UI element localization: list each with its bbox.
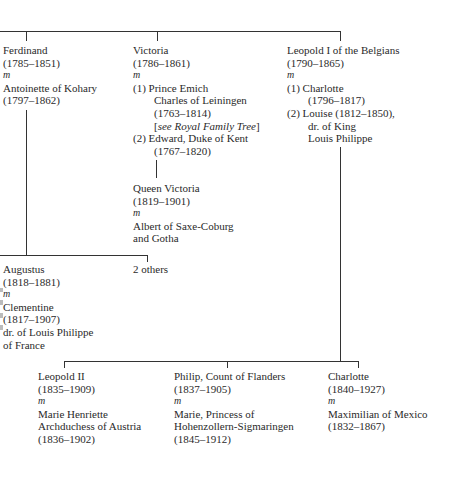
marriage-marker: m (3, 69, 97, 82)
spouse-parentage: dr. of Louis Philippe (3, 326, 93, 339)
spouse-house: Hohenzollern-Sigmaringen (174, 420, 294, 433)
spouse-name: Marie, Princess of (174, 408, 294, 421)
node-charlotte: Charlotte (1840–1927) m Maximilian of Me… (328, 370, 428, 433)
spouse-dates: (1832–1867) (328, 420, 428, 433)
marriage-marker: m (328, 395, 428, 408)
leopold1-descent-line (340, 147, 341, 361)
spouse2-name: (2) Edward, Duke of Kent (133, 132, 260, 145)
charlotte-drop-line (358, 361, 359, 368)
node-augustus: Augustus (1818–1881) m Clementine (1817–… (3, 263, 93, 351)
person-name: Victoria (133, 44, 260, 57)
marriage-marker: m (3, 288, 93, 301)
person-name: Philip, Count of Flanders (174, 370, 294, 383)
spouse1-name: (1) Prince Emich (133, 82, 260, 95)
person-name: Leopold I of the Belgians (287, 44, 399, 57)
node-ferdinand: Ferdinand (1785–1851) m Antoinette of Ko… (3, 44, 97, 107)
spouse-dates: (1845–1912) (174, 433, 294, 446)
marriage-marker: m (287, 69, 399, 82)
top-sibling-connector (0, 31, 341, 32)
marriage-marker: m (38, 395, 141, 408)
spouse1-name-line2: Charles of Leiningen (133, 94, 260, 107)
spouse-title: Archduchess of Austria (38, 420, 141, 433)
spouse1-dates: (1796–1817) (287, 94, 399, 107)
spouse1-name: (1) Charlotte (287, 82, 399, 95)
spouse-name-line2: and Gotha (133, 232, 234, 245)
spouse2-dates: (1767–1820) (133, 145, 260, 158)
marriage-marker: m (174, 395, 294, 408)
bracket-close: ] (256, 120, 260, 132)
node-victoria: Victoria (1786–1861) m (1) Prince Emich … (133, 44, 260, 157)
person-name: Augustus (3, 263, 93, 276)
spouse-dates: (1836–1902) (38, 433, 141, 446)
spouse1-cross-reference: [see Royal Family Tree] (133, 120, 260, 133)
marriage-marker: m (133, 207, 234, 220)
spouse-name: Albert of Saxe-Coburg (133, 220, 234, 233)
spouse-parentage-line2: of France (3, 339, 93, 352)
ferdinand-drop-line (26, 31, 27, 41)
spouse2-name: (2) Louise (1812–1850), (287, 107, 399, 120)
spouse-name: Antoinette of Kohary (3, 82, 97, 95)
person-dates: (1785–1851) (3, 57, 97, 70)
node-leopold2: Leopold II (1835–1909) m Marie Henriette… (38, 370, 141, 446)
node-philip: Philip, Count of Flanders (1837–1905) m … (174, 370, 294, 446)
spouse1-dates: (1763–1814) (133, 107, 260, 120)
person-name: Charlotte (328, 370, 428, 383)
person-dates: (1835–1909) (38, 383, 141, 396)
person-name: Ferdinand (3, 44, 97, 57)
ferdinand-children-connector (0, 255, 148, 256)
person-dates: (1837–1905) (174, 383, 294, 396)
person-dates: (1790–1865) (287, 57, 399, 70)
leopold1-drop-line (340, 31, 341, 41)
spouse-name: Maximilian of Mexico (328, 408, 428, 421)
philip-drop-line (227, 361, 228, 368)
marriage-marker: m (133, 69, 260, 82)
node-queen-victoria: Queen Victoria (1819–1901) m Albert of S… (133, 182, 234, 245)
cross-reference-text: see Royal Family Tree (158, 120, 256, 132)
spouse2-line2: dr. of King (287, 120, 399, 133)
spouse-name: Marie Henriette (38, 408, 141, 421)
person-dates: (1819–1901) (133, 195, 234, 208)
victoria-descent-line (156, 160, 157, 178)
spouse-name: Clementine (3, 301, 93, 314)
node-leopold1: Leopold I of the Belgians (1790–1865) m … (287, 44, 399, 145)
victoria-drop-line (157, 31, 158, 41)
person-dates: (1818–1881) (3, 276, 93, 289)
others-label: 2 others (133, 263, 168, 276)
spouse2-line3: Louis Philippe (287, 132, 399, 145)
leopold1-children-connector (64, 361, 359, 362)
person-dates: (1786–1861) (133, 57, 260, 70)
leopold2-drop-line (64, 361, 65, 368)
others-drop-line (147, 255, 148, 262)
person-name: Queen Victoria (133, 182, 234, 195)
person-dates: (1840–1927) (328, 383, 428, 396)
spouse-dates: (1797–1862) (3, 94, 97, 107)
person-name: Leopold II (38, 370, 141, 383)
node-2-others: 2 others (133, 263, 168, 276)
spouse-dates: (1817–1907) (3, 313, 93, 326)
ferdinand-descent-line (26, 110, 27, 255)
